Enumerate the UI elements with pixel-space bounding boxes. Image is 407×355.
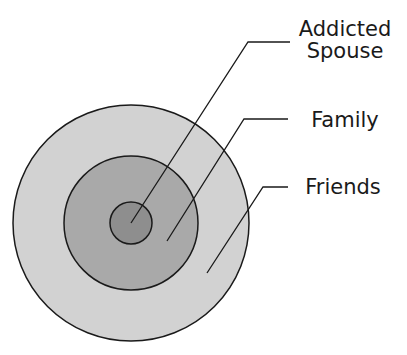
addicted-label-line2: Spouse	[307, 39, 384, 63]
addicted-label-line1: Addicted	[299, 17, 392, 41]
family-label: Family	[311, 108, 379, 132]
concentric-circles-diagram: Addicted Spouse Family Friends	[0, 0, 407, 355]
friends-label: Friends	[305, 175, 381, 199]
